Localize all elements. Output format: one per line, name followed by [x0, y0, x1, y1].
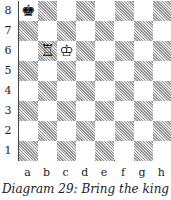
- square-f8: [115, 1, 134, 21]
- square-h2: [153, 121, 171, 141]
- diagram-caption: Diagram 29: Bring the king: [0, 182, 171, 196]
- square-g6: [134, 41, 153, 61]
- file-label: d: [75, 166, 94, 179]
- square-f2: [115, 121, 134, 141]
- square-b2: [38, 121, 57, 141]
- square-e5: [95, 61, 114, 81]
- square-c7: [57, 21, 76, 41]
- square-a3: [19, 101, 38, 121]
- square-a2: [19, 121, 38, 141]
- square-c1: [57, 141, 76, 161]
- square-b1: [38, 141, 57, 161]
- square-g5: [134, 61, 153, 81]
- square-a4: [19, 81, 38, 101]
- file-label: a: [18, 166, 37, 179]
- square-c8: [57, 1, 76, 21]
- square-e7: [95, 21, 114, 41]
- square-h5: [153, 61, 171, 81]
- square-b8: [38, 1, 57, 21]
- square-b3: [38, 101, 57, 121]
- square-e2: [95, 121, 114, 141]
- square-h7: [153, 21, 171, 41]
- square-e3: [95, 101, 114, 121]
- square-h3: [153, 101, 171, 121]
- rank-label: 6: [2, 44, 14, 57]
- white-rook-icon: ♖: [38, 41, 57, 61]
- square-a6: [19, 41, 38, 61]
- square-c2: [57, 121, 76, 141]
- square-d3: [76, 101, 95, 121]
- square-c3: [57, 101, 76, 121]
- square-f6: [115, 41, 134, 61]
- square-d8: [76, 1, 95, 21]
- square-d5: [76, 61, 95, 81]
- file-label: g: [133, 166, 152, 179]
- square-d7: [76, 21, 95, 41]
- file-label: c: [56, 166, 75, 179]
- square-d2: [76, 121, 95, 141]
- square-a1: [19, 141, 38, 161]
- square-g7: [134, 21, 153, 41]
- rank-label: 1: [2, 144, 14, 157]
- square-b7: [38, 21, 57, 41]
- square-g1: [134, 141, 153, 161]
- square-d6: [76, 41, 95, 61]
- square-e6: [95, 41, 114, 61]
- rank-label: 2: [2, 124, 14, 137]
- square-b4: [38, 81, 57, 101]
- square-c4: [57, 81, 76, 101]
- square-f1: [115, 141, 134, 161]
- square-h8: [153, 1, 171, 21]
- square-g3: [134, 101, 153, 121]
- square-d1: [76, 141, 95, 161]
- square-g4: [134, 81, 153, 101]
- square-f7: [115, 21, 134, 41]
- square-h6: [153, 41, 171, 61]
- rank-label: 4: [2, 84, 14, 97]
- square-d4: [76, 81, 95, 101]
- square-f5: [115, 61, 134, 81]
- square-e8: [95, 1, 114, 21]
- square-h1: [153, 141, 171, 161]
- square-c5: [57, 61, 76, 81]
- rank-label: 8: [2, 4, 14, 17]
- rank-label: 5: [2, 64, 14, 77]
- square-a5: [19, 61, 38, 81]
- square-f4: [115, 81, 134, 101]
- square-h4: [153, 81, 171, 101]
- black-king-icon: ♚: [19, 1, 38, 21]
- white-king-icon: ♔: [57, 41, 76, 61]
- square-e1: [95, 141, 114, 161]
- square-f3: [115, 101, 134, 121]
- square-b5: [38, 61, 57, 81]
- rank-label: 7: [2, 24, 14, 37]
- file-label: b: [37, 166, 56, 179]
- chess-board: ♚♖♔: [18, 1, 171, 161]
- square-g2: [134, 121, 153, 141]
- square-g8: [134, 1, 153, 21]
- square-a7: [19, 21, 38, 41]
- square-e4: [95, 81, 114, 101]
- rank-label: 3: [2, 104, 14, 117]
- file-label: e: [94, 166, 113, 179]
- file-label: f: [114, 166, 133, 179]
- file-label: h: [152, 166, 171, 179]
